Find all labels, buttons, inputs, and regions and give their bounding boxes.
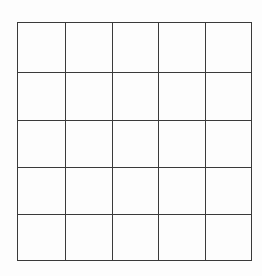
grid-cell bbox=[159, 215, 206, 260]
grid-cell bbox=[206, 215, 251, 260]
grid-cell bbox=[18, 215, 66, 260]
grid-cell bbox=[113, 23, 159, 73]
grid-cell bbox=[18, 168, 66, 215]
grid-cell bbox=[206, 168, 251, 215]
grid-cell bbox=[66, 23, 113, 73]
grid-cell bbox=[113, 168, 159, 215]
grid-cell bbox=[206, 73, 251, 121]
grid-cell bbox=[18, 121, 66, 168]
grid-cell bbox=[159, 23, 206, 73]
grid-cell bbox=[159, 73, 206, 121]
grid-cell bbox=[159, 121, 206, 168]
grid-cell bbox=[66, 215, 113, 260]
empty-grid bbox=[17, 22, 252, 261]
grid-cell bbox=[206, 23, 251, 73]
grid-cell bbox=[113, 73, 159, 121]
grid-cell bbox=[18, 23, 66, 73]
grid-cell bbox=[18, 73, 66, 121]
grid-cell bbox=[159, 168, 206, 215]
grid-cell bbox=[113, 121, 159, 168]
grid-cell bbox=[66, 73, 113, 121]
grid-cell bbox=[206, 121, 251, 168]
grid-cell bbox=[113, 215, 159, 260]
grid-cell bbox=[66, 121, 113, 168]
grid-cell bbox=[66, 168, 113, 215]
